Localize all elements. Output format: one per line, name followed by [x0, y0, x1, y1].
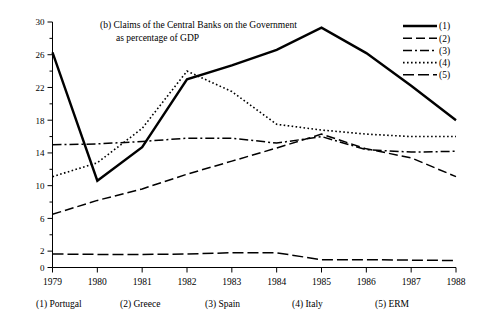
footer-key-portugal: (1) Portugal — [36, 299, 82, 310]
y-tick-label: 18 — [36, 116, 46, 126]
y-tick-label: 10 — [36, 181, 46, 191]
y-tick-label: 26 — [36, 50, 46, 60]
legend-label-3: (3) — [439, 46, 450, 57]
footer-key-italy: (4) Italy — [292, 299, 323, 310]
legend-label-4: (4) — [439, 58, 450, 69]
x-tick-label: 1988 — [447, 277, 466, 287]
x-tick-label: 1981 — [133, 277, 152, 287]
y-tick-label: 6 — [40, 214, 45, 224]
chart-subtitle: as percentage of GDP — [116, 33, 199, 43]
y-tick-label: 14 — [36, 148, 46, 158]
legend-label-5: (5) — [439, 70, 450, 81]
chart-background — [0, 0, 480, 321]
y-tick-label: 0 — [40, 263, 45, 273]
x-tick-label: 1982 — [178, 277, 197, 287]
y-tick-label: 2 — [40, 246, 45, 256]
footer-key-greece: (2) Greece — [120, 299, 160, 310]
footer-key-erm: (5) ERM — [375, 299, 410, 310]
line-chart: 026101418222630 197919801981198219831984… — [0, 0, 480, 321]
x-tick-label: 1979 — [43, 277, 62, 287]
chart-figure: 026101418222630 197919801981198219831984… — [0, 0, 480, 321]
footer-key-spain: (3) Spain — [205, 299, 240, 310]
x-tick-label: 1980 — [88, 277, 107, 287]
x-tick-label: 1985 — [312, 277, 331, 287]
legend-label-1: (1) — [439, 21, 450, 32]
x-tick-label: 1987 — [402, 277, 421, 287]
x-tick-label: 1986 — [357, 277, 376, 287]
y-tick-label: 22 — [36, 83, 45, 93]
chart-title: (b) Claims of the Central Banks on the G… — [100, 20, 297, 31]
x-tick-label: 1983 — [222, 277, 241, 287]
legend-label-2: (2) — [439, 34, 450, 45]
x-tick-label: 1984 — [267, 277, 286, 287]
y-tick-label: 30 — [36, 17, 46, 27]
